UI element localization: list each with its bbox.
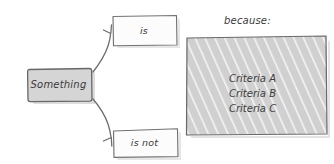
- diagram-canvas: Something is is not because: Criteria A …: [0, 0, 334, 164]
- connector-arrows: [93, 25, 112, 146]
- list-item: Criteria B: [229, 87, 276, 100]
- branch-node-is-label: is: [112, 15, 176, 45]
- list-item: Criteria C: [229, 102, 276, 115]
- source-node-label: Something: [27, 68, 90, 100]
- arrow-to-is-head: [104, 25, 112, 34]
- panel-caption: because:: [224, 15, 271, 26]
- criteria-list: Criteria A Criteria B Criteria C: [229, 72, 276, 115]
- arrow-to-is-not-path: [93, 99, 111, 137]
- branch-node-is-not-label: is not: [112, 128, 177, 157]
- list-item: Criteria A: [229, 72, 276, 85]
- arrow-to-is-path: [93, 35, 111, 73]
- arrow-to-is-not-head: [104, 138, 112, 147]
